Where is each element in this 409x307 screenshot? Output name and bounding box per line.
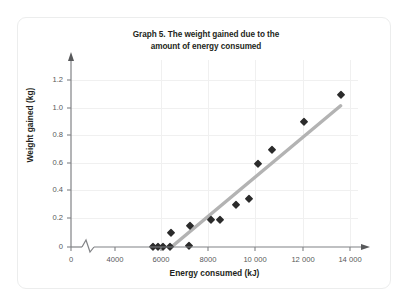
x-axis-break-zigzag-icon xyxy=(82,240,94,252)
xtick-label-8000: 8000 xyxy=(182,256,234,264)
ytick-label-0.8: 0.8 xyxy=(37,131,63,139)
x-axis-arrow-icon xyxy=(361,244,370,250)
x-axis-title: Energy consumed (kJ) xyxy=(71,268,358,278)
y-axis-title: Weight gained (kg) xyxy=(25,65,35,185)
ytick-label-1.2: 1.2 xyxy=(37,76,63,84)
xtick-label-14000: 14 000 xyxy=(324,256,376,264)
ytick-label-1.0: 1.0 xyxy=(37,104,63,112)
scatter-chart-figure: Graph 5. The weight gained due to the am… xyxy=(0,0,409,307)
ytick-label-0.2: 0.2 xyxy=(37,214,63,222)
ytick-label-0.6: 0.6 xyxy=(37,159,63,167)
xtick-label-12000: 12 000 xyxy=(277,256,329,264)
ytick-label-0: 0 xyxy=(37,243,63,251)
xtick-label-10000: 10 000 xyxy=(229,256,281,264)
y-axis-arrow-icon xyxy=(68,52,74,61)
ytick-label-0.4: 0.4 xyxy=(37,186,63,194)
xtick-label-6000: 6000 xyxy=(135,256,187,264)
xtick-label-4000: 4000 xyxy=(89,256,141,264)
